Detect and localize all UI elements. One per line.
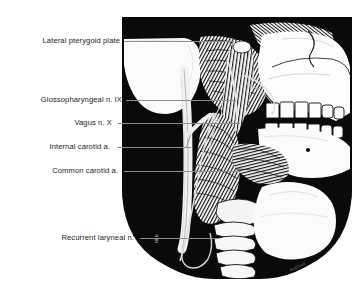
leader-line-internal-carotid: [117, 147, 191, 148]
label-lateral-pterygoid-plate: Lateral pterygoid plate: [22, 36, 120, 45]
leader-line-recurrent-laryngeal: [140, 238, 218, 239]
label-internal-carotid-artery: Internal carotid a.: [26, 142, 110, 151]
leader-line-glossopharyngeal: [126, 100, 236, 101]
leader-line-vagus: [118, 123, 240, 124]
inline-tick-recurrent-laryngeal: RLN: [154, 234, 159, 243]
label-vagus-nerve: Vagus n. X: [40, 118, 112, 127]
leader-line-common-carotid: [124, 171, 240, 172]
label-glossopharyngeal-nerve: Glossopharyngeal n. IX: [18, 95, 122, 104]
label-recurrent-laryngeal-nerve: Recurrent laryneal n.: [36, 233, 134, 242]
label-common-carotid-artery: Common carotid a.: [30, 166, 118, 175]
leader-line-lateral-pterygoid-plate: [124, 41, 234, 42]
anatomical-figure: Lateral pterygoid plate Glossopharyngeal…: [0, 0, 362, 297]
